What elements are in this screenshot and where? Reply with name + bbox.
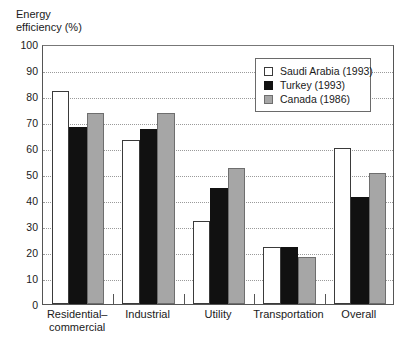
- bar: [263, 247, 281, 304]
- y-tick-label: 30: [2, 222, 38, 232]
- legend-swatch-turkey: [264, 81, 273, 90]
- bar: [210, 188, 228, 304]
- x-tick-label: Industrial: [112, 308, 182, 321]
- bar: [298, 257, 316, 304]
- axis-separator-tick: [184, 294, 185, 304]
- y-tick-label: 60: [2, 144, 38, 154]
- bar: [228, 168, 246, 305]
- y-tick-label: 90: [2, 66, 38, 76]
- axis-separator-tick: [325, 294, 326, 304]
- legend-item: Saudi Arabia (1993): [264, 64, 364, 78]
- x-axis: Residential– commercialIndustrialUtility…: [42, 308, 394, 342]
- x-tick-label: Residential– commercial: [42, 308, 112, 334]
- y-tick-label: 80: [2, 92, 38, 102]
- bar: [193, 221, 211, 304]
- y-tick-label: 100: [2, 40, 38, 50]
- y-tick-label: 50: [2, 170, 38, 180]
- chart-legend: Saudi Arabia (1993)Turkey (1993)Canada (…: [255, 58, 371, 112]
- legend-swatch-canada: [264, 95, 273, 104]
- bar: [369, 173, 387, 304]
- legend-label: Canada (1986): [280, 94, 350, 105]
- bar: [87, 113, 105, 304]
- y-axis: 1009080706050403020100: [0, 45, 38, 305]
- x-tick-label: Overall: [324, 308, 394, 321]
- bar: [281, 247, 299, 304]
- y-tick-label: 40: [2, 196, 38, 206]
- legend-item: Canada (1986): [264, 92, 364, 106]
- y-tick-label: 10: [2, 274, 38, 284]
- y-tick-label: 0: [2, 300, 38, 310]
- x-tick-label: Utility: [183, 308, 253, 321]
- legend-swatch-saudi: [264, 67, 273, 76]
- chart-axis-title: Energy efficiency (%): [16, 8, 82, 34]
- bar: [69, 127, 87, 304]
- y-tick-label: 20: [2, 248, 38, 258]
- axis-separator-tick: [254, 294, 255, 304]
- bar: [334, 148, 352, 304]
- legend-item: Turkey (1993): [264, 78, 364, 92]
- y-tick-label: 70: [2, 118, 38, 128]
- bar: [351, 197, 369, 304]
- legend-label: Turkey (1993): [280, 80, 345, 91]
- bar: [157, 113, 175, 304]
- axis-separator-tick: [113, 294, 114, 304]
- bar: [52, 91, 70, 304]
- legend-label: Saudi Arabia (1993): [280, 66, 373, 77]
- bar: [122, 140, 140, 304]
- bar: [140, 129, 158, 305]
- x-tick-label: Transportation: [253, 308, 323, 321]
